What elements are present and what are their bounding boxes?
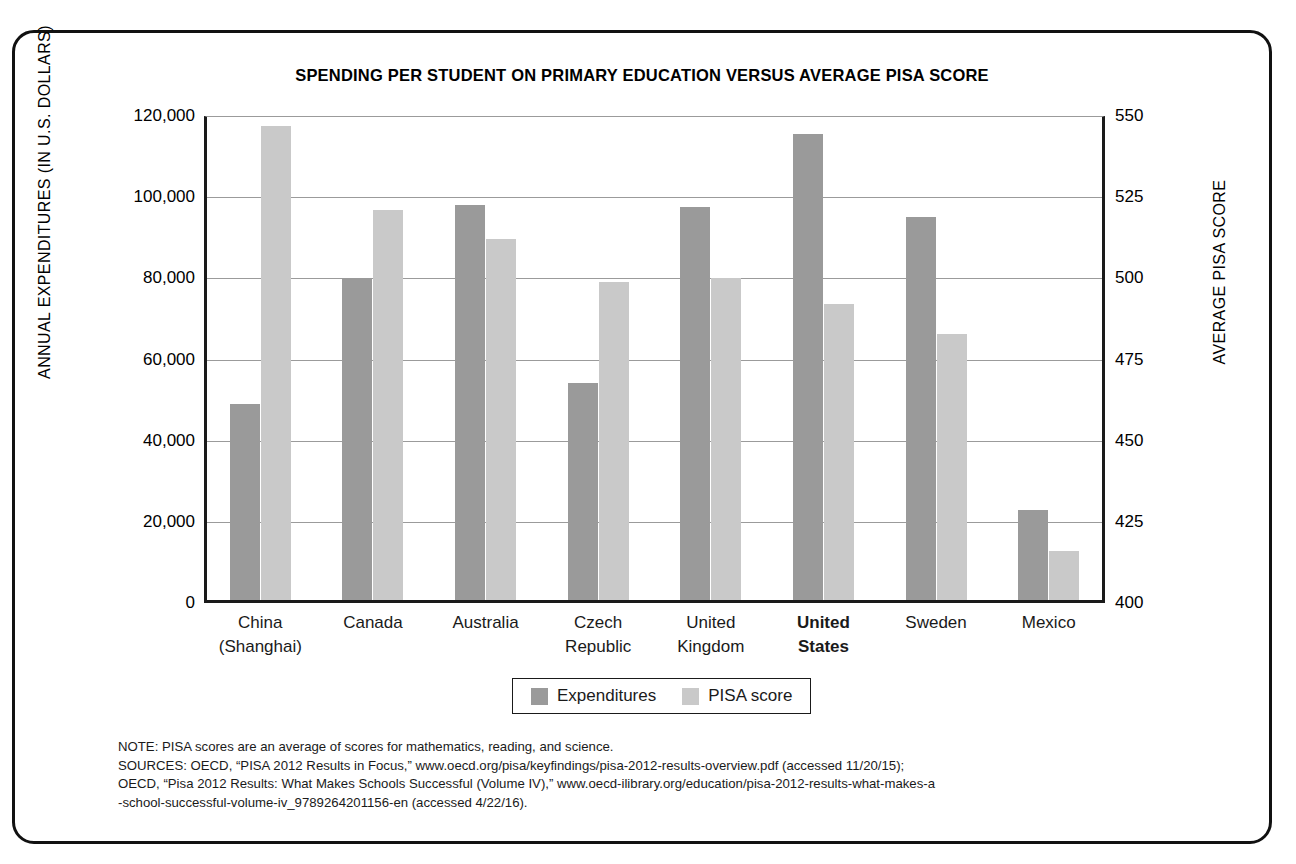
- x-axis-category-line: Sweden: [880, 611, 993, 635]
- x-axis-category-line: United: [655, 611, 768, 635]
- right-axis-label: AVERAGE PISA SCORE: [1211, 107, 1229, 437]
- left-axis-tick-label: 20,000: [143, 512, 195, 532]
- source-line: OECD, “Pisa 2012 Results: What Makes Sch…: [118, 775, 1178, 794]
- left-axis-tick-label: 120,000: [134, 106, 195, 126]
- x-axis-category-line: Australia: [429, 611, 542, 635]
- plot-frame: [204, 116, 1105, 603]
- notes-block: NOTE: PISA scores are an average of scor…: [118, 738, 1178, 812]
- right-axis-tick-label: 425: [1115, 512, 1143, 532]
- x-axis-category-line: Canada: [317, 611, 430, 635]
- source-line: -school-successful-volume-iv_97892642011…: [118, 794, 1178, 813]
- legend-item-expenditures[interactable]: Expenditures: [531, 686, 656, 706]
- legend-swatch-expenditures-icon: [531, 688, 548, 705]
- legend-label-pisa-score: PISA score: [708, 686, 792, 706]
- legend-label-expenditures: Expenditures: [557, 686, 656, 706]
- left-axis-tick-label: 60,000: [143, 350, 195, 370]
- x-axis-category-label: UnitedKingdom: [655, 611, 768, 659]
- x-axis-category-label: Canada: [317, 611, 430, 635]
- x-axis-category-line: States: [767, 635, 880, 659]
- x-axis-category-line: Republic: [542, 635, 655, 659]
- x-axis-category-label: UnitedStates: [767, 611, 880, 659]
- x-axis-category-line: Czech: [542, 611, 655, 635]
- right-axis-ticks: 400425450475500525550: [1115, 116, 1205, 603]
- left-axis-tick-label: 0: [186, 593, 195, 613]
- x-axis-category-line: Mexico: [992, 611, 1105, 635]
- right-axis-tick-label: 500: [1115, 268, 1143, 288]
- left-axis-tick-label: 100,000: [134, 187, 195, 207]
- left-axis-ticks: 020,00040,00060,00080,000100,000120,000: [75, 116, 195, 603]
- legend-swatch-pisa-score-icon: [682, 688, 699, 705]
- x-axis-category-label: China(Shanghai): [204, 611, 317, 659]
- chart-title: SPENDING PER STUDENT ON PRIMARY EDUCATIO…: [15, 66, 1269, 85]
- x-axis-category-label: Sweden: [880, 611, 993, 635]
- source-line: SOURCES: OECD, “PISA 2012 Results in Foc…: [118, 757, 1178, 776]
- x-axis-category-line: (Shanghai): [204, 635, 317, 659]
- x-axis-labels: China(Shanghai)CanadaAustraliaCzechRepub…: [204, 611, 1105, 681]
- legend: Expenditures PISA score: [512, 678, 811, 714]
- right-axis-tick-label: 550: [1115, 106, 1143, 126]
- left-axis-tick-label: 40,000: [143, 431, 195, 451]
- right-axis-tick-label: 400: [1115, 593, 1143, 613]
- figure-frame: SPENDING PER STUDENT ON PRIMARY EDUCATIO…: [12, 30, 1272, 844]
- right-axis-tick-label: 475: [1115, 350, 1143, 370]
- left-axis-label: ANNUAL EXPENDITURES (IN U.S. DOLLARS): [36, 0, 54, 412]
- right-axis-tick-label: 450: [1115, 431, 1143, 451]
- note-line: NOTE: PISA scores are an average of scor…: [118, 738, 1178, 757]
- right-axis-tick-label: 525: [1115, 187, 1143, 207]
- legend-item-pisa-score[interactable]: PISA score: [682, 686, 792, 706]
- left-axis-tick-label: 80,000: [143, 268, 195, 288]
- x-axis-category-line: United: [767, 611, 880, 635]
- x-axis-category-line: China: [204, 611, 317, 635]
- x-axis-category-label: Australia: [429, 611, 542, 635]
- plot-area: [204, 116, 1105, 603]
- x-axis-category-label: Mexico: [992, 611, 1105, 635]
- x-axis-category-label: CzechRepublic: [542, 611, 655, 659]
- x-axis-category-line: Kingdom: [655, 635, 768, 659]
